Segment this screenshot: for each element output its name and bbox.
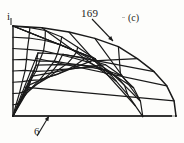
mesh-line (24, 87, 174, 101)
axis-label-i: i (7, 11, 10, 22)
scan-speck (122, 17, 125, 18)
mesh-element-lines (13, 26, 176, 117)
annotation-arrows (11, 18, 113, 136)
node-label-169: 169 (81, 8, 98, 19)
mesh-diagram (0, 0, 184, 143)
scan-speck (172, 115, 175, 117)
subfigure-caption: (c) (128, 13, 139, 23)
node-label-6: 6 (34, 126, 40, 137)
mesh-line (93, 59, 137, 61)
figure-container: i 169 (c) 6 (0, 0, 184, 143)
